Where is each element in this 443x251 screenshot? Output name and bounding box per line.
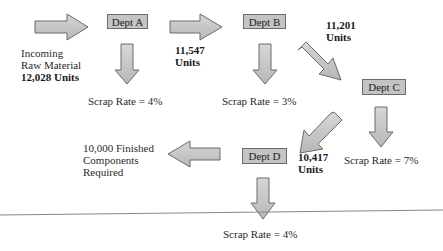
arrow-down-icon: [253, 44, 277, 84]
arrow-right-icon: [35, 14, 88, 40]
dept-b-scrap-rate: Scrap Rate = 3%: [222, 95, 296, 107]
dept-d-scrap-rate: Scrap Rate = 4%: [223, 228, 297, 240]
arrow-down-icon: [251, 178, 275, 219]
arrow-right-icon: [170, 14, 222, 40]
arrow-down-icon: [369, 107, 393, 147]
output-label-line2: Components: [83, 154, 139, 166]
input-label-line2: Raw Material: [21, 59, 81, 71]
arrow-down-icon: [115, 44, 139, 84]
input-units: 12,028 Units: [21, 71, 79, 83]
output-label-line3: Required: [83, 166, 123, 178]
arrow-left-icon: [168, 141, 220, 167]
dept-b-box: Dept B: [243, 14, 286, 29]
flow-b-to-c-unit: Units: [326, 31, 351, 43]
production-flow-diagram: Dept A Dept B Dept C Dept D Incoming Raw…: [0, 0, 443, 251]
arrow-diagonal-down-right-icon: [298, 42, 341, 80]
flow-a-to-b-value: 11,547: [175, 44, 205, 56]
dept-a-scrap-rate: Scrap Rate = 4%: [88, 95, 162, 107]
input-label-line1: Incoming: [21, 47, 63, 59]
output-label-line1: 10,000 Finished: [83, 142, 154, 154]
dept-c-box: Dept C: [362, 79, 406, 95]
dept-c-scrap-rate: Scrap Rate = 7%: [344, 154, 418, 166]
arrow-diagonal-down-left-icon: [300, 112, 342, 153]
diagram-shapes: [0, 0, 443, 251]
dept-d-box: Dept D: [242, 148, 287, 164]
divider-line: [0, 210, 443, 215]
flow-c-to-d-value: 10,417: [298, 151, 328, 163]
dept-a-box: Dept A: [107, 14, 148, 29]
flow-b-to-c-value: 11,201: [326, 19, 356, 31]
flow-a-to-b-unit: Units: [175, 56, 200, 68]
flow-c-to-d-unit: Units: [298, 163, 323, 175]
